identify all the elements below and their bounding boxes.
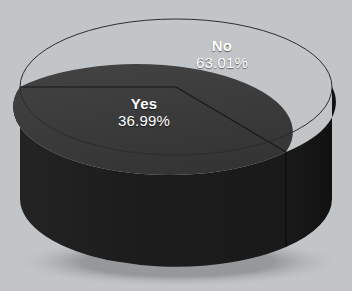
pie-chart-graphic — [0, 0, 352, 291]
pie-chart-container: No 63.01% Yes 36.99% — [0, 0, 352, 291]
pie-side-wall-right — [286, 87, 336, 247]
